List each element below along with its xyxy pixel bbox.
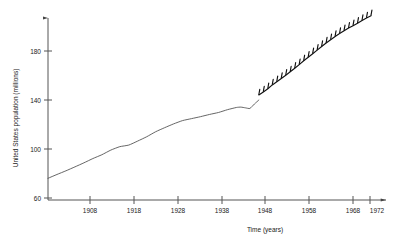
y-tick-label-100: 100 [30, 146, 41, 153]
data-point-marker [362, 15, 363, 20]
x-axis-title: Time (years) [247, 226, 283, 234]
series-measured-line [259, 16, 371, 95]
data-point-marker [353, 20, 354, 25]
y-axis-tick-labels: 180 140 100 60 [30, 48, 41, 202]
data-point-marker [344, 25, 345, 30]
data-point-marker [371, 10, 372, 15]
population-chart: 180 140 100 60 1908 1918 1928 1938 1948 … [0, 0, 400, 241]
y-tick-label-180: 180 [30, 48, 41, 55]
x-tick-label-1908: 1908 [83, 207, 98, 214]
data-point-marker [272, 79, 273, 84]
x-tick-label-1968: 1968 [346, 207, 361, 214]
chart-canvas: 180 140 100 60 1908 1918 1928 1938 1948 … [0, 0, 400, 241]
data-point-marker [349, 22, 350, 27]
y-tick-label-140: 140 [30, 97, 41, 104]
y-tick-label-60: 60 [34, 195, 42, 202]
data-point-marker [263, 86, 264, 91]
x-tick-label-1948: 1948 [258, 207, 273, 214]
y-axis-title: United States population (millions) [12, 69, 20, 168]
data-point-marker [281, 73, 282, 78]
x-tick-label-1928: 1928 [171, 207, 186, 214]
data-point-marker [259, 89, 260, 94]
data-point-marker [340, 28, 341, 33]
data-point-marker [367, 12, 368, 17]
x-tick-label-1958: 1958 [302, 207, 317, 214]
x-tick-label-1972: 1972 [370, 207, 385, 214]
series-estimated-trend-line [48, 100, 259, 178]
data-point-marker [335, 31, 336, 36]
data-point-marker [358, 18, 359, 23]
x-tick-label-1938: 1938 [215, 207, 230, 214]
x-tick-label-1918: 1918 [127, 207, 142, 214]
x-axis-tick-labels: 1908 1918 1928 1938 1948 1958 1968 1972 [83, 207, 385, 214]
